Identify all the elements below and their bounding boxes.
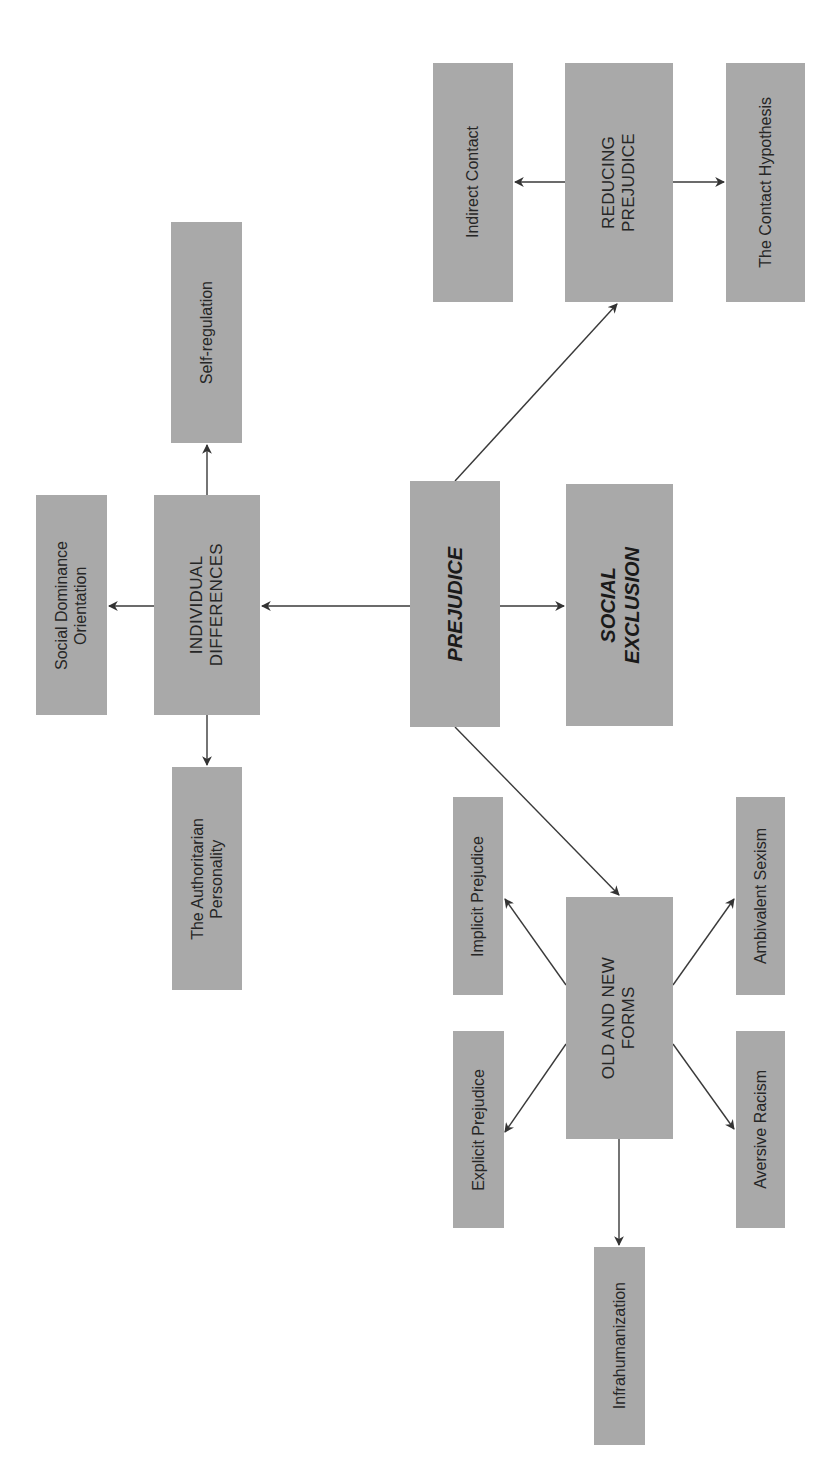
node-contact-hypothesis: The Contact Hypothesis	[726, 63, 805, 302]
node-label: Infrahumanization	[610, 1282, 629, 1409]
node-label: Implicit Prejudice	[468, 836, 487, 957]
node-label: SOCIAL EXCLUSION	[596, 547, 644, 664]
node-self-regulation: Self-regulation	[171, 222, 242, 443]
node-ambivalent-sexism: Ambivalent Sexism	[736, 797, 785, 995]
node-aversive-racism: Aversive Racism	[736, 1031, 785, 1228]
node-label: Social Dominance Orientation	[52, 541, 90, 670]
node-label: Aversive Racism	[751, 1070, 770, 1189]
node-label: INDIVIDUAL DIFFERENCES	[187, 543, 228, 666]
edge-layer	[0, 0, 826, 1471]
node-label: Self-regulation	[197, 281, 216, 384]
node-label: OLD AND NEW FORMS	[599, 957, 640, 1079]
node-label: PREJUDICE	[443, 547, 467, 661]
node-indirect-contact: Indirect Contact	[433, 63, 513, 302]
node-label: Ambivalent Sexism	[751, 828, 770, 964]
node-label: Explicit Prejudice	[469, 1069, 488, 1191]
node-prejudice: PREJUDICE	[410, 481, 500, 727]
node-old-and-new-forms: OLD AND NEW FORMS	[566, 897, 673, 1139]
node-social-dominance-orientation: Social Dominance Orientation	[36, 495, 107, 715]
node-authoritarian-personality: The Authoritarian Personality	[172, 767, 242, 990]
node-label: The Authoritarian Personality	[188, 818, 226, 940]
node-label: REDUCING PREJUDICE	[599, 133, 640, 232]
edge-prejudice-reducing-prejudice	[455, 304, 617, 481]
node-reducing-prejudice: REDUCING PREJUDICE	[565, 63, 673, 302]
node-implicit-prejudice: Implicit Prejudice	[453, 797, 503, 995]
node-label: Indirect Contact	[463, 126, 482, 238]
node-label: The Contact Hypothesis	[756, 97, 775, 268]
edge-forms-explicit	[505, 1044, 566, 1132]
node-explicit-prejudice: Explicit Prejudice	[453, 1031, 504, 1228]
edge-forms-aversive	[673, 1044, 734, 1129]
edge-forms-ambivalent	[673, 899, 734, 985]
node-individual-differences: INDIVIDUAL DIFFERENCES	[154, 495, 260, 715]
edge-forms-implicit	[505, 899, 566, 985]
node-social-exclusion: SOCIAL EXCLUSION	[566, 484, 673, 726]
node-infrahumanization: Infrahumanization	[594, 1247, 645, 1445]
